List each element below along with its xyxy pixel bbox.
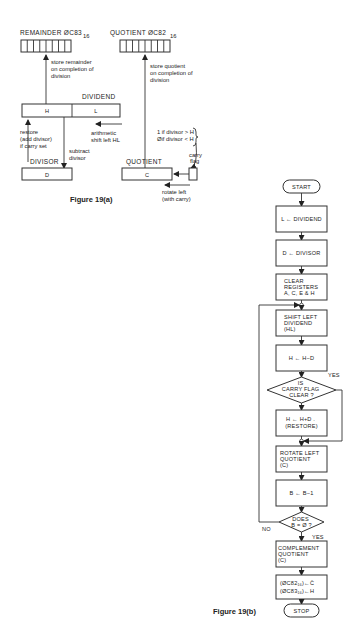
quotient-label: QUOTIENT [126,158,162,166]
svg-text:H ← H−D: H ← H−D [289,355,315,361]
svg-text:L ← DIVIDEND: L ← DIVIDEND [281,216,322,222]
restore-note: restore (add divisor) if carry set [20,129,54,149]
store-remainder-note: store remainder on completion of divisio… [51,59,95,79]
register-hl [22,104,120,117]
dividend-label: DIVIDEND [82,93,115,100]
figure-19a-caption: Figure 19(a) [70,195,113,204]
svg-text:STOP: STOP [294,608,310,614]
quotient-memory-cell [120,40,170,52]
loop-junction [300,303,304,307]
carry-flag-label: carry flag [189,152,204,164]
shift-note: arithmetic shift left HL [91,130,121,143]
decision-b-text: DOES B = Ø ? [291,516,312,528]
step-restore-text: H ← H+D . (RESTORE) [285,416,317,429]
figure-19b-caption: Figure 19(b) [213,607,256,616]
figure-19a: REMAINDER ØC83 16 QUOTIENT ØC82 16 store… [20,29,204,204]
svg-text:B ← B−1: B ← B−1 [290,490,314,496]
subtract-note: subtract divisor [69,148,91,161]
figure-19b: START L ← DIVIDEND D ← DIVISOR CLEAR REG… [213,180,342,617]
division-diagram: REMAINDER ØC83 16 QUOTIENT ØC82 16 store… [0,0,359,624]
quotient-memory-sub: 16 [170,33,176,39]
svg-text:START: START [292,184,311,190]
svg-text:C: C [145,172,149,178]
store-quotient-note: store quotient on completion of division [150,63,194,83]
remainder-memory-cell [21,40,71,52]
divisor-label: DIVISOR [30,158,59,165]
remainder-sub: 16 [83,33,89,39]
carry-flag-box [189,168,197,180]
carry-rule-note: 1 if divisor > H Øif divisor < H [157,129,196,142]
register-l: L [94,108,97,114]
svg-text:D ← DIVISOR: D ← DIVISOR [283,250,321,256]
merge-junction [300,439,304,443]
register-h: H [45,108,49,114]
rotate-note: rotate left (with carry) [162,189,191,202]
quotient-memory-label: QUOTIENT ØC82 [110,29,166,37]
svg-text:D: D [45,172,49,178]
b-no-label: NO [262,526,271,532]
remainder-label: REMAINDER ØC83 [20,29,82,36]
carry-yes-label: YES [328,372,340,378]
b-yes-label: YES [312,534,324,540]
step-store-results [276,575,327,599]
